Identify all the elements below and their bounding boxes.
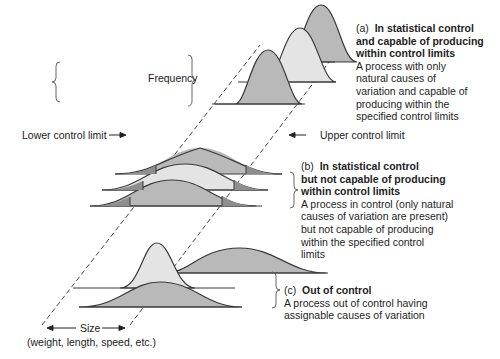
upper-limit-arrow-icon: [289, 133, 306, 138]
panel-b-desc-3: but not capable of producing: [301, 223, 453, 236]
panel-b-title-3: within control limits: [301, 185, 453, 198]
panel-a-title-2: and capable of producing: [356, 35, 484, 48]
panel-b-text: (b) In statistical control but not capab…: [301, 160, 453, 261]
panel-b-desc-1: A process in control (only natural: [301, 198, 453, 211]
panel-a-curves: [212, 5, 357, 104]
panel-b-curves: [90, 148, 282, 206]
panel-b-brace: [290, 172, 298, 208]
frequency-label: Frequency: [148, 72, 198, 84]
panel-b-title-2: but not capable of producing: [301, 173, 453, 186]
panel-c-text: (c) Out of control A process out of cont…: [284, 284, 428, 322]
size-sublabel: (weight, length, speed, etc.): [27, 336, 156, 348]
panel-a-desc-2: natural causes of: [356, 72, 484, 85]
upper-control-limit-label: Upper control limit: [320, 129, 405, 141]
lower-limit-arrow-icon: [109, 133, 126, 138]
panel-a-desc-4: producing within the: [356, 98, 484, 111]
size-left-arrow-icon: [47, 326, 76, 331]
panel-a-desc-3: variation and capable of: [356, 85, 484, 98]
size-right-arrow-icon: [102, 326, 125, 331]
panel-c-desc-1: A process out of control having: [284, 297, 428, 310]
panel-b-desc-4: within the specified control: [301, 236, 453, 249]
frequency-brace: [52, 62, 60, 102]
panel-a-desc-5: specified control limits: [356, 110, 484, 123]
panel-a-desc-1: A process with only: [356, 60, 484, 73]
panel-c-desc-2: assignable causes of variation: [284, 309, 428, 322]
panel-c-tag: (c): [284, 284, 296, 296]
panel-b-tag: (b): [301, 160, 314, 172]
panel-b-desc-2: causes of variation are present): [301, 210, 453, 223]
panel-a-text: (a) In statistical control and capable o…: [356, 22, 484, 123]
lower-control-limit-label: Lower control limit: [22, 129, 107, 141]
panel-c-title-1: Out of control: [302, 284, 371, 296]
panel-b-desc-5: limits: [301, 248, 453, 261]
size-label: Size: [80, 322, 100, 334]
panel-a-title-1: In statistical control: [375, 22, 474, 34]
panel-a-title-3: within control limits: [356, 47, 484, 60]
panel-a-tag: (a): [356, 22, 369, 34]
panel-b-title-1: In statistical control: [320, 160, 419, 172]
panel-c-brace: [272, 272, 280, 308]
